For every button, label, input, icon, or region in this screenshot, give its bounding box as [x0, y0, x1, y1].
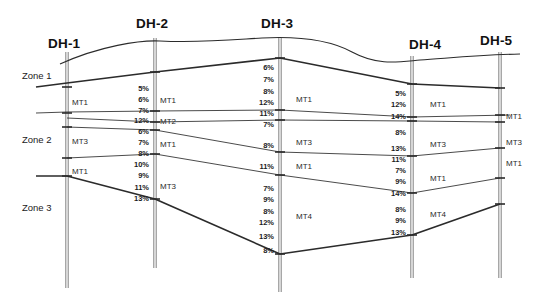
- cross-section-figure: DH-1DH-2DH-3DH-4DH-5Zone 1Zone 2Zone 3MT…: [0, 0, 545, 304]
- borehole-DH-4[interactable]: [411, 56, 413, 278]
- cross-section-canvas: [0, 0, 545, 304]
- contact-line-MT1-lower-base: [67, 154, 500, 193]
- contact-line-top-of-MT1: [36, 58, 500, 88]
- contact-line-MT1-base: [36, 110, 510, 117]
- contact-line-bedrock-top: [36, 176, 500, 254]
- borehole-DH-5[interactable]: [499, 52, 501, 278]
- geologic-contacts-group: [36, 38, 520, 254]
- contact-tick-marks-group: [62, 58, 505, 254]
